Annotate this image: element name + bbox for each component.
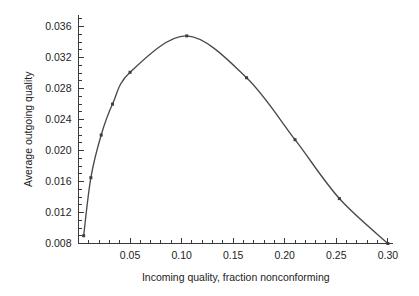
y-axis-title: Average outgoing quality	[22, 71, 34, 187]
x-tick-label: 0.10	[171, 249, 192, 261]
x-tick-label: 0.20	[275, 249, 296, 261]
data-point-marker	[129, 71, 132, 74]
data-point-marker	[111, 103, 114, 106]
y-tick-label: 0.012	[45, 206, 71, 218]
y-tick-label: 0.032	[45, 51, 71, 63]
y-tick-label: 0.016	[45, 175, 71, 187]
x-tick-label: 0.30	[378, 249, 399, 261]
x-tick-label: 0.25	[326, 249, 347, 261]
y-tick-label: 0.024	[45, 113, 71, 125]
data-point-marker	[245, 76, 248, 79]
y-tick-label: 0.036	[45, 20, 71, 32]
y-tick-label: 0.008	[45, 237, 71, 249]
chart-figure: 0.0080.0120.0160.0200.0240.0280.0320.036…	[0, 0, 419, 296]
aoq-curve-chart: 0.0080.0120.0160.0200.0240.0280.0320.036…	[0, 0, 419, 296]
y-tick-label: 0.020	[45, 144, 71, 156]
x-tick-label: 0.15	[223, 249, 244, 261]
data-point-marker	[89, 176, 92, 179]
data-point-marker	[294, 138, 297, 141]
data-point-marker	[100, 134, 103, 137]
data-point-marker	[185, 34, 188, 37]
data-point-marker	[386, 242, 389, 245]
data-point-marker	[338, 197, 341, 200]
x-axis-title: Incoming quality, fraction nonconforming	[142, 271, 330, 283]
x-tick-label: 0.05	[120, 249, 141, 261]
y-tick-label: 0.028	[45, 82, 71, 94]
data-point-marker	[82, 234, 85, 237]
